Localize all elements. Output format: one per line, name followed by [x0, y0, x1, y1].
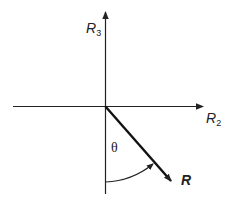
axis-label-r2-subscript: 2	[216, 118, 221, 128]
diagram-canvas: R3 R2 θ R	[0, 0, 233, 207]
angle-arc-arrow	[106, 164, 154, 182]
vector-label-r: R	[181, 173, 191, 187]
axis-label-r2: R2	[206, 111, 221, 128]
axis-label-r3-subscript: 3	[96, 28, 101, 38]
axis-label-r3: R3	[86, 21, 101, 38]
axis-label-r2-base: R	[206, 110, 216, 126]
axis-label-r3-base: R	[86, 20, 96, 36]
angle-label-theta: θ	[111, 141, 118, 155]
diagram-svg	[0, 0, 233, 207]
